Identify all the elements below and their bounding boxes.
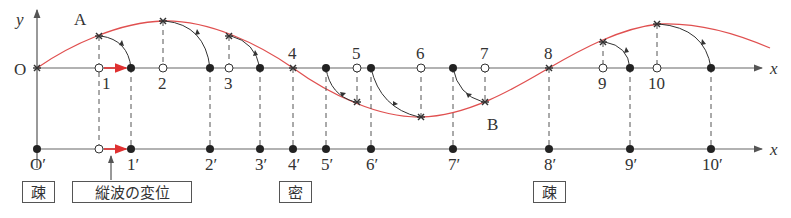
bottom-x-axis-label: x (769, 140, 778, 159)
top-x-axis-label: x (769, 59, 778, 78)
dashed-guides (99, 21, 711, 149)
sparse-label-box-2: 疎 (533, 181, 566, 203)
rotation-arrows (101, 21, 711, 117)
svg-text:1′: 1′ (127, 155, 139, 174)
svg-text:7′: 7′ (448, 155, 460, 174)
svg-text:6: 6 (416, 44, 425, 63)
displacement-label-box: 縦波の変位 (72, 181, 192, 203)
svg-text:9: 9 (598, 74, 607, 93)
svg-text:5: 5 (352, 44, 361, 63)
svg-text:O′: O′ (30, 155, 46, 174)
equilibrium-points (95, 64, 661, 153)
bottom-point-labels: O′ 1′ 2′ 3′ 4′ 5′ 6′ 7′ 8′ 9′ 10′ (30, 155, 723, 174)
svg-text:8: 8 (544, 44, 553, 63)
sparse-label-box-1: 疎 (22, 181, 55, 203)
point-a-label: A (74, 10, 87, 29)
svg-text:4: 4 (288, 44, 297, 63)
origin-label: O (14, 60, 26, 79)
svg-text:7: 7 (480, 44, 489, 63)
svg-text:10: 10 (648, 74, 665, 93)
svg-text:6′: 6′ (366, 155, 378, 174)
svg-text:10′: 10′ (702, 155, 723, 174)
svg-text:2′: 2′ (205, 155, 217, 174)
svg-text:4′: 4′ (288, 155, 300, 174)
point-b-label: B (487, 115, 498, 134)
dense-label-box: 密 (279, 181, 312, 203)
svg-text:3: 3 (224, 74, 233, 93)
svg-text:8′: 8′ (544, 155, 556, 174)
svg-text:2: 2 (158, 74, 167, 93)
y-axis-label: y (14, 10, 24, 29)
svg-text:9′: 9′ (625, 155, 637, 174)
svg-text:1: 1 (102, 74, 111, 93)
svg-text:3′: 3′ (255, 155, 267, 174)
svg-text:5′: 5′ (321, 155, 333, 174)
